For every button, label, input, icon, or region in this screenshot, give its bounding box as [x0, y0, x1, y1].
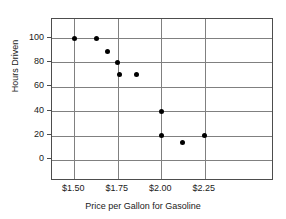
- y-tick-label: 100: [29, 33, 44, 42]
- y-tick-mark: [47, 85, 51, 86]
- data-point: [115, 60, 120, 65]
- y-gridline: [52, 38, 272, 39]
- x-tick-label: $1.75: [105, 183, 128, 193]
- y-tick-label: 80: [34, 57, 44, 66]
- y-axis-title: Hours Driven: [10, 11, 20, 121]
- data-point: [72, 36, 77, 41]
- data-point: [159, 133, 164, 138]
- x-gridline: [161, 19, 162, 179]
- plot-area: [51, 18, 273, 180]
- y-gridline: [52, 160, 272, 161]
- x-axis-title: Price per Gallon for Gasoline: [0, 201, 286, 211]
- scatter-chart-figure: 020406080100 Hours Driven $1.50$1.75$2.0…: [0, 0, 286, 219]
- x-gridline: [74, 19, 75, 179]
- y-gridline: [52, 62, 272, 63]
- y-tick-label: 20: [34, 130, 44, 139]
- data-point: [117, 72, 122, 77]
- x-tick-label: $1.50: [62, 183, 85, 193]
- y-tick-label: 60: [34, 81, 44, 90]
- y-tick-mark: [47, 37, 51, 38]
- x-gridline: [205, 19, 206, 179]
- y-axis-tick-labels: 020406080100: [0, 18, 49, 180]
- x-gridline: [118, 19, 119, 179]
- data-point: [94, 36, 99, 41]
- y-tick-mark: [47, 110, 51, 111]
- y-tick-label: 40: [34, 106, 44, 115]
- data-point: [180, 140, 185, 145]
- x-tick-label: $2.25: [192, 183, 215, 193]
- x-axis-tick-labels: $1.50$1.75$2.00$2.25: [0, 183, 286, 197]
- y-tick-mark: [47, 158, 51, 159]
- y-tick-mark: [47, 134, 51, 135]
- data-point: [159, 109, 164, 114]
- data-point: [105, 49, 110, 54]
- data-point: [202, 133, 207, 138]
- y-tick-label: 0: [39, 154, 44, 163]
- y-tick-mark: [47, 61, 51, 62]
- data-point: [134, 72, 139, 77]
- x-tick-label: $2.00: [149, 183, 172, 193]
- y-gridline: [52, 87, 272, 88]
